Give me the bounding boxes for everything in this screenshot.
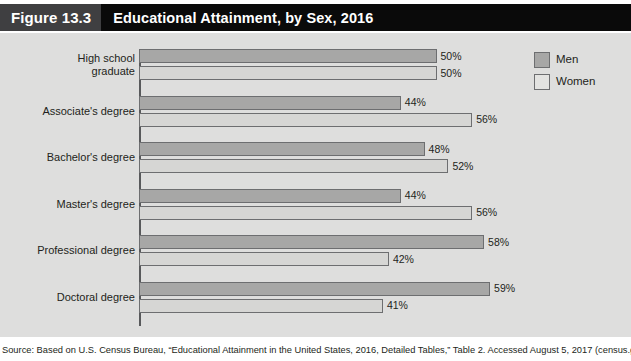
bar-value-label: 58%: [488, 237, 509, 248]
bar-men[interactable]: [139, 142, 425, 156]
bar-row: 44%: [139, 96, 426, 110]
source-note: Source: Based on U.S. Census Bureau, “Ed…: [2, 345, 631, 356]
category-label-wrapper: Bachelor's degree: [0, 142, 135, 173]
category-label: Master's degree: [0, 198, 135, 211]
bar-women[interactable]: [139, 206, 472, 220]
bar-row: 50%: [139, 66, 462, 80]
category-label: Associate's degree: [0, 105, 135, 118]
bar-group: 58%42%Professional degree: [139, 235, 631, 266]
bar-women[interactable]: [139, 252, 389, 266]
bar-row: 44%: [139, 189, 426, 203]
figure-title: Educational Attainment, by Sex, 2016: [101, 4, 631, 31]
bar-men[interactable]: [139, 235, 484, 249]
bar-group: 44%56%Master's degree: [139, 189, 631, 220]
figure-number: Figure 13.3: [0, 4, 101, 31]
bar-men[interactable]: [139, 96, 401, 110]
bar-row: 41%: [139, 299, 408, 313]
legend-swatch-women-icon: [534, 74, 550, 90]
bar-women[interactable]: [139, 299, 383, 313]
bar-women[interactable]: [139, 113, 472, 127]
bar-value-label: 50%: [441, 68, 462, 79]
category-label: Bachelor's degree: [0, 151, 135, 164]
bar-row: 56%: [139, 113, 497, 127]
bar-value-label: 56%: [476, 207, 497, 218]
bar-value-label: 56%: [476, 114, 497, 125]
bar-value-label: 44%: [405, 190, 426, 201]
legend-label-women: Women: [556, 76, 595, 88]
bar-value-label: 48%: [429, 144, 450, 155]
legend-label-men: Men: [556, 54, 578, 66]
category-label-wrapper: High school graduate: [0, 49, 135, 80]
bar-row: 58%: [139, 235, 509, 249]
figure-header: Figure 13.3 Educational Attainment, by S…: [0, 4, 631, 31]
category-label: Professional degree: [0, 244, 135, 257]
bar-value-label: 42%: [393, 254, 414, 265]
bar-women[interactable]: [139, 159, 448, 173]
chart-panel: 50%50%High school graduate44%56%Associat…: [0, 33, 631, 337]
figure-container: Figure 13.3 Educational Attainment, by S…: [0, 0, 631, 361]
bar-row: 59%: [139, 282, 515, 296]
bar-men[interactable]: [139, 49, 437, 63]
bar-group: 59%41%Doctoral degree: [139, 282, 631, 313]
category-label-wrapper: Doctoral degree: [0, 282, 135, 313]
bar-men[interactable]: [139, 282, 490, 296]
bar-row: 50%: [139, 49, 462, 63]
bar-row: 56%: [139, 206, 497, 220]
bar-row: 42%: [139, 252, 414, 266]
legend-item-women[interactable]: Women: [534, 74, 624, 90]
category-label-wrapper: Associate's degree: [0, 96, 135, 127]
bar-row: 48%: [139, 142, 450, 156]
bar-group: 44%56%Associate's degree: [139, 96, 631, 127]
bar-value-label: 59%: [494, 283, 515, 294]
category-label: Doctoral degree: [0, 291, 135, 304]
bar-value-label: 41%: [387, 300, 408, 311]
bar-value-label: 52%: [452, 161, 473, 172]
bar-women[interactable]: [139, 66, 437, 80]
bar-value-label: 44%: [405, 97, 426, 108]
bar-row: 52%: [139, 159, 473, 173]
bar-group: 48%52%Bachelor's degree: [139, 142, 631, 173]
bar-men[interactable]: [139, 189, 401, 203]
legend-item-men[interactable]: Men: [534, 52, 624, 68]
category-label: High school graduate: [0, 52, 135, 77]
category-label-wrapper: Master's degree: [0, 189, 135, 220]
chart-legend: Men Women: [534, 52, 624, 96]
bar-value-label: 50%: [441, 51, 462, 62]
category-label-wrapper: Professional degree: [0, 235, 135, 266]
legend-swatch-men-icon: [534, 52, 550, 68]
